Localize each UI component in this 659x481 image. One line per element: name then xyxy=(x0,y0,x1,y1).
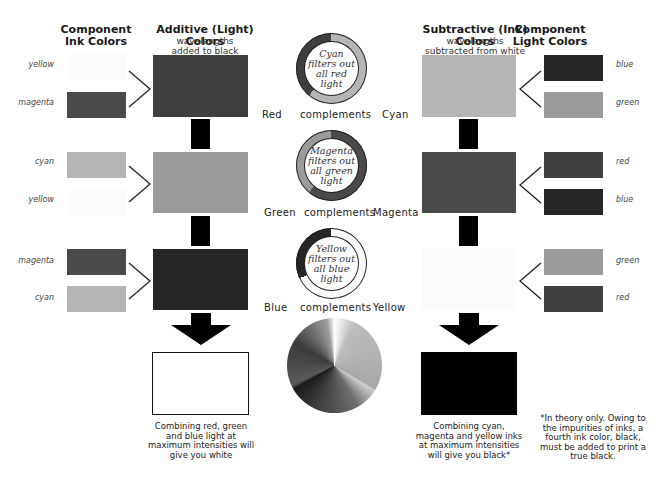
additive-subheader: wavelengths added to black xyxy=(140,36,270,56)
subtractive-swatch-yellow xyxy=(422,249,516,310)
light-swatch-green xyxy=(544,92,603,118)
additive-swatch-red xyxy=(153,55,248,117)
filter-text: Magenta filters out all green light xyxy=(305,139,358,192)
color-wheel xyxy=(287,318,382,413)
complement-right: Yellow xyxy=(373,302,406,313)
complement-right: Magenta xyxy=(373,207,419,218)
bracket-icon xyxy=(128,165,152,203)
component-ink-header: Component Ink Colors xyxy=(56,24,136,48)
additive-caption: Combining red, green and blue light at m… xyxy=(140,422,262,460)
result-swatch-white xyxy=(152,352,249,415)
ink-label: yellow xyxy=(22,195,54,204)
component-light-header: Component Light Colors xyxy=(500,24,600,48)
additive-swatch-blue xyxy=(153,249,248,310)
complement-word: complements xyxy=(300,302,371,313)
down-arrow-icon xyxy=(438,313,500,345)
ink-swatch-cyan xyxy=(67,152,126,178)
light-swatch-red xyxy=(544,152,603,178)
filter-text: Yellow filters out all blue light xyxy=(305,237,358,290)
bracket-icon xyxy=(518,262,542,300)
light-label: green xyxy=(616,256,639,265)
light-label: green xyxy=(616,98,639,107)
ink-swatch-cyan xyxy=(67,286,126,312)
filter-ring-magenta: Magenta filters out all green light xyxy=(296,130,367,201)
ink-label: yellow xyxy=(22,60,54,69)
subtractive-caption: Combining cyan, magenta and yellow inks … xyxy=(406,422,532,460)
additive-swatch-green xyxy=(153,152,248,213)
down-arrow-icon xyxy=(170,313,232,345)
complement-right: Cyan xyxy=(382,109,409,120)
light-label: red xyxy=(616,157,629,166)
complement-word: complements xyxy=(304,207,375,218)
complement-left: Blue xyxy=(264,302,287,313)
ink-swatch-magenta xyxy=(67,249,126,275)
filter-ring-cyan: Cyan filters out all red light xyxy=(296,33,367,104)
result-swatch-black xyxy=(421,352,517,415)
light-label: blue xyxy=(616,195,633,204)
light-swatch-red xyxy=(544,286,603,312)
subtractive-swatch-magenta xyxy=(422,152,516,213)
bracket-icon xyxy=(518,166,542,204)
light-swatch-blue xyxy=(544,189,603,215)
ink-swatch-yellow xyxy=(67,190,126,216)
complement-word: complements xyxy=(300,109,371,120)
connector-bar xyxy=(191,216,210,246)
ink-label: cyan xyxy=(22,293,54,302)
complement-left: Red xyxy=(262,109,282,120)
ink-label: cyan xyxy=(22,157,54,166)
filter-text: Cyan filters out all red light xyxy=(305,42,358,95)
bracket-icon xyxy=(518,70,542,108)
light-label: blue xyxy=(616,60,633,69)
bracket-icon xyxy=(128,262,152,300)
connector-bar xyxy=(191,119,210,149)
subtractive-swatch-cyan xyxy=(422,55,516,117)
footnote: *In theory only. Owing to the impurities… xyxy=(530,414,656,462)
filter-ring-yellow: Yellow filters out all blue light xyxy=(296,228,367,299)
ink-swatch-yellow xyxy=(67,54,126,80)
light-label: red xyxy=(616,293,629,302)
light-swatch-blue xyxy=(544,55,603,81)
connector-bar xyxy=(459,119,478,149)
ink-label: magenta xyxy=(14,256,54,265)
light-swatch-green xyxy=(544,249,603,275)
ink-label: magenta xyxy=(14,98,54,107)
complement-left: Green xyxy=(264,207,296,218)
connector-bar xyxy=(459,216,478,246)
ink-swatch-magenta xyxy=(67,92,126,118)
bracket-icon xyxy=(128,70,152,108)
